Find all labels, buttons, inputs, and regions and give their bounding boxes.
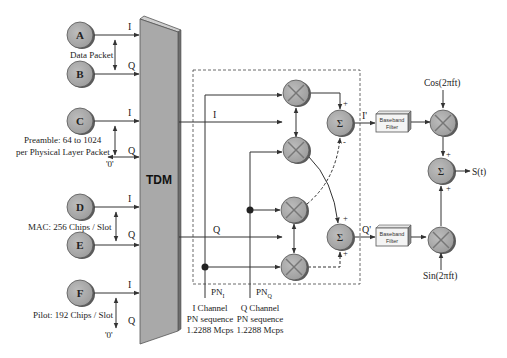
baseband-filter-i: Baseband Filter: [376, 111, 411, 132]
pn-i-junction: [202, 264, 209, 271]
source-node-e: E: [67, 232, 95, 259]
label-f-i: I: [128, 279, 131, 290]
summer-i: Σ: [327, 110, 355, 137]
output-label: S(t): [472, 167, 486, 178]
svg-text:+: +: [343, 248, 348, 258]
pn-i-label: PNI: [211, 287, 225, 299]
summer-q: Σ: [327, 224, 355, 251]
source-label: D: [76, 201, 84, 213]
mac-label: MAC: 256 Chips / Slot: [28, 222, 112, 232]
label-c-q: Q: [128, 145, 136, 156]
label-c-i: I: [128, 107, 131, 118]
tdm-label: TDM: [146, 173, 172, 187]
svg-text:PN sequence: PN sequence: [187, 314, 234, 324]
source-annotations: Data Packet Preamble: 64 to 1024 per Phy…: [16, 50, 114, 340]
block-diagram: TDM ABCDEF I Q I Q I Q I Q Data Packet P…: [0, 0, 507, 358]
label-e-q: Q: [128, 229, 136, 240]
label-f-q: Q: [128, 315, 136, 326]
source-node-f: F: [67, 280, 95, 307]
svg-text:Filter: Filter: [386, 124, 398, 130]
svg-text:+: +: [343, 98, 348, 108]
i-channel-label: I: [213, 109, 216, 120]
zero-label-c: '0': [106, 159, 114, 169]
q-prime-label: Q': [362, 224, 371, 235]
preamble-label-1: Preamble: 64 to 1024: [24, 135, 102, 145]
source-arrows: [94, 35, 139, 328]
source-label: B: [76, 68, 84, 80]
label-b-q: Q: [128, 60, 136, 71]
pilot-label: Pilot: 192 Chips / Slot: [33, 310, 114, 320]
source-label: C: [76, 115, 84, 127]
multiplier-q-pni: [281, 254, 309, 281]
source-label: E: [76, 239, 83, 251]
svg-text:I Channel: I Channel: [192, 303, 228, 313]
cos-carrier-label: Cos(2πft): [424, 78, 460, 89]
svg-text:Baseband: Baseband: [380, 231, 405, 237]
baseband-filter-q: Baseband Filter: [376, 225, 411, 246]
preamble-label-2: per Physical Layer Packet: [16, 147, 110, 157]
q-channel-label: Q: [213, 224, 221, 235]
pn-q-label: PNQ: [256, 287, 273, 299]
sigma-icon: Σ: [337, 117, 343, 129]
svg-text:+: +: [446, 149, 451, 159]
multiplier-i-pni: [283, 80, 311, 107]
pn-captions: I Channel PN sequence 1.2288 Mcps Q Chan…: [187, 303, 284, 335]
pn-q-junction: [247, 207, 254, 214]
svg-text:Baseband: Baseband: [380, 117, 405, 123]
svg-text:+: +: [446, 183, 451, 193]
source-node-a: A: [67, 22, 95, 49]
multipliers: [281, 80, 458, 281]
svg-text:Q Channel: Q Channel: [241, 303, 280, 313]
tdm-block: TDM: [140, 16, 181, 344]
source-nodes: ABCDEF: [67, 22, 95, 307]
svg-text:PN sequence: PN sequence: [237, 314, 284, 324]
source-io-labels: I Q I Q I Q I Q: [128, 21, 136, 326]
i-prime-label: I': [362, 110, 367, 121]
multiplier-q-pnq: [281, 197, 309, 224]
svg-text:Filter: Filter: [386, 238, 398, 244]
source-label: A: [76, 29, 84, 41]
spreading-block: [193, 70, 360, 284]
source-node-c: C: [67, 108, 95, 135]
multiplier-cos: [430, 110, 458, 137]
multiplier-i-pnq: [283, 137, 311, 164]
source-node-b: B: [67, 61, 95, 88]
sigma-icon: Σ: [337, 231, 343, 243]
data-packet-label: Data Packet: [70, 50, 114, 60]
source-node-d: D: [67, 194, 95, 221]
svg-text:1.2288 Mcps: 1.2288 Mcps: [187, 325, 234, 335]
sin-carrier-label: Sin(2πft): [423, 271, 457, 282]
sigma-icon: Σ: [438, 165, 444, 177]
svg-text:1.2288 Mcps: 1.2288 Mcps: [237, 325, 284, 335]
svg-text:-: -: [343, 137, 346, 147]
source-label: F: [77, 287, 84, 299]
summer-output: Σ: [428, 158, 456, 185]
label-d-i: I: [128, 193, 131, 204]
label-a-i: I: [128, 21, 131, 32]
multiplier-sin: [428, 227, 456, 254]
svg-text:+: +: [343, 213, 348, 223]
zero-label-f: '0': [105, 330, 113, 340]
